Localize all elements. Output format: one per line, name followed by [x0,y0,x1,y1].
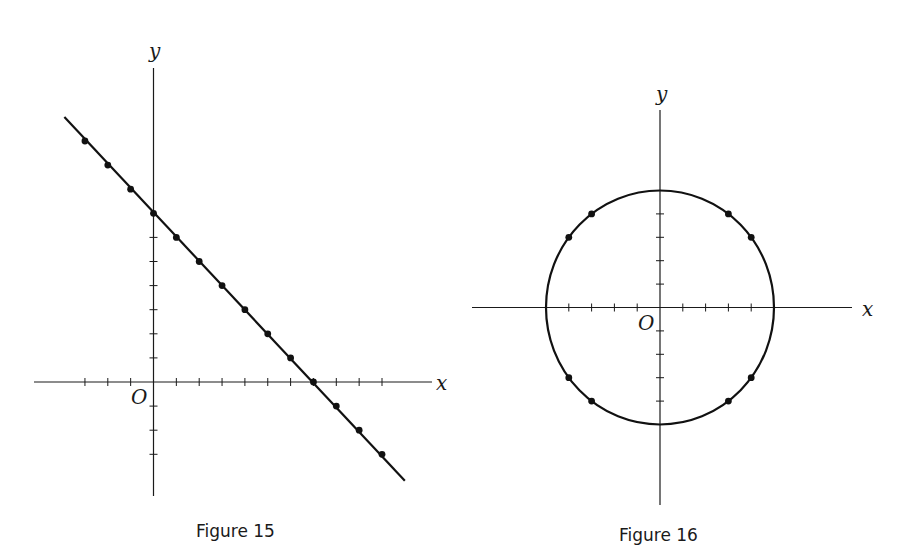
figures-canvas: xyO xyO [0,0,907,550]
data-point [310,379,317,386]
data-point [127,186,134,193]
data-point [748,234,755,241]
data-point [588,211,595,218]
data-point [82,138,89,145]
data-point [219,282,226,289]
data-point [196,258,203,265]
x-axis-label: x [436,371,447,395]
data-point [287,355,294,362]
data-point [588,398,595,405]
y-axis-label: y [655,82,668,106]
origin-label: O [638,311,654,335]
data-point [565,234,572,241]
origin-label: O [131,385,147,409]
x-axis-label: x [862,297,873,321]
line-x-plus-y-equals-7 [64,117,404,481]
data-point [150,210,157,217]
data-point [333,403,340,410]
data-point [379,451,386,458]
data-point [104,162,111,169]
data-point [725,398,732,405]
data-point [173,234,180,241]
figure-15-plot: xyO [34,39,447,496]
data-point [725,211,732,218]
data-point [356,427,363,434]
figure-16-plot: xyO [472,82,873,505]
data-point [565,374,572,381]
data-point [242,306,249,313]
figure-16-caption: Figure 16 [619,525,698,545]
data-point [748,374,755,381]
y-axis-label: y [148,39,161,63]
figure-15-caption: Figure 15 [196,521,275,541]
data-point [264,330,271,337]
